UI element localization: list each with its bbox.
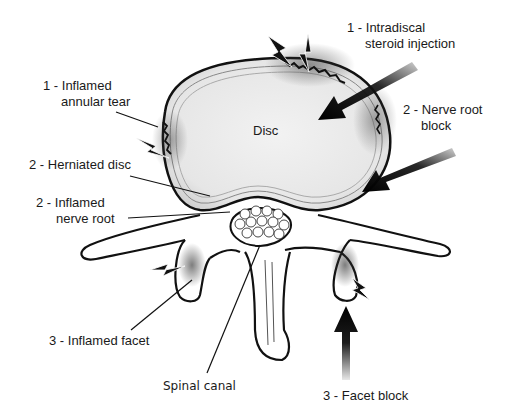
label-line: 2 - Inflamed xyxy=(36,195,115,211)
label-line: 3 - Facet block xyxy=(323,388,408,404)
label-nerve-root-block: 2 - Nerve root block xyxy=(403,102,482,134)
label-line: block xyxy=(403,118,482,134)
label-spinal-canal: Spinal canal xyxy=(163,378,236,394)
label-facet-block: 3 - Facet block xyxy=(323,388,408,404)
label-line: 1 - Inflamed xyxy=(43,78,130,94)
label-inflamed-facet: 3 - Inflamed facet xyxy=(49,333,149,349)
label-line: steroid injection xyxy=(347,36,455,52)
label-inflamed-annular-tear: 1 - Inflamed annular tear xyxy=(43,78,130,110)
label-line: 3 - Inflamed facet xyxy=(49,333,149,349)
label-line: 2 - Nerve root xyxy=(403,102,482,118)
label-herniated-disc: 2 - Herniated disc xyxy=(29,157,131,173)
label-inflamed-nerve-root: 2 - Inflamed nerve root xyxy=(36,195,115,227)
label-line: annular tear xyxy=(43,94,130,110)
spinal-canal xyxy=(231,206,291,246)
label-intradiscal-injection: 1 - Intradiscal steroid injection xyxy=(347,20,455,52)
label-line: nerve root xyxy=(36,211,115,227)
label-line: 2 - Herniated disc xyxy=(29,157,131,173)
label-line: 1 - Intradiscal xyxy=(347,20,455,36)
disc-label: Disc xyxy=(253,123,278,138)
